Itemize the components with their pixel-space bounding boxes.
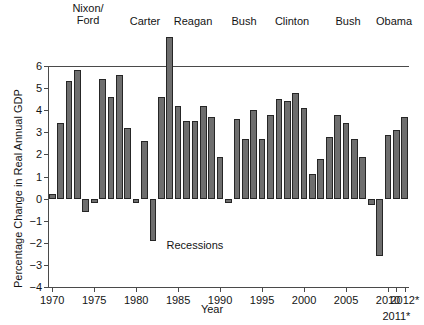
x-tick [405,287,406,292]
y-axis-line [48,66,49,288]
president-label-band: Nixon/ FordCarterReaganBushClintonBushOb… [0,0,424,34]
y-tick-label: 3 [36,126,42,138]
y-tick [44,265,48,266]
y-tick-label: 1 [36,171,42,183]
bar [393,130,400,199]
y-tick-label: 6 [36,60,42,72]
bar [166,37,173,198]
y-tick [44,110,48,111]
president-label: Obama [354,16,424,28]
bar [284,101,291,198]
bar [276,99,283,198]
bar [183,121,190,198]
bar [66,81,73,198]
gdp-bar-chart: Nixon/ FordCarterReaganBushClintonBushOb… [0,0,424,325]
bar [267,115,274,199]
bar [74,70,81,198]
bar [175,106,182,199]
y-tick [44,66,48,67]
x-tick [304,287,305,292]
bar [250,110,257,198]
x-tick [262,287,263,292]
bar [208,117,215,199]
x-axis-line [48,287,409,288]
y-tick [44,199,48,200]
bar [217,157,224,199]
bar [401,117,408,199]
y-tick [44,154,48,155]
bar [359,157,366,199]
bar [133,199,140,203]
y-axis-title: Percentage Change in Real Annual GDP [12,89,24,288]
bar [49,194,56,198]
bar [376,199,383,256]
y-tick-label: −2 [29,237,42,249]
y-tick-label: −1 [29,215,42,227]
bar [141,141,148,198]
bar [150,199,157,241]
y-tick-label: 0 [36,193,42,205]
y-tick-label: 4 [36,104,42,116]
recessions-annotation: Recessions [166,239,223,251]
bar [234,119,241,199]
bar [259,139,266,199]
x-tick [136,287,137,292]
y-tick [44,88,48,89]
y-tick-label: −4 [29,281,42,293]
bar [91,199,98,203]
x-tick [94,287,95,292]
bar [334,115,341,199]
bar [326,137,333,199]
bar [242,139,249,199]
bar [57,123,64,198]
y-tick [44,132,48,133]
bar [124,128,131,199]
y-tick-label: 5 [36,82,42,94]
y-tick-label: 2 [36,148,42,160]
x-tick [396,287,397,292]
bar [351,139,358,199]
bar [368,199,375,206]
bar [317,159,324,199]
bar [116,75,123,199]
bar [192,121,199,198]
y-tick [44,243,48,244]
bar [225,199,232,203]
bar [99,79,106,198]
bar [292,93,299,199]
x-tick [220,287,221,292]
zero-baseline [48,66,409,67]
bar [309,174,316,198]
x-tick [52,287,53,292]
y-tick [44,287,48,288]
bar [301,108,308,199]
bar [385,135,392,199]
bar [343,123,350,198]
x-axis-title: Year [0,303,424,315]
y-tick [44,177,48,178]
y-tick-label: −3 [29,259,42,271]
x-tick [388,287,389,292]
x-tick [346,287,347,292]
bar [108,97,115,199]
bar [82,199,89,212]
plot-area: 6543210−1−2−3−4 197019751980198519901995… [48,66,409,288]
bar [158,97,165,199]
y-tick [44,221,48,222]
x-tick [178,287,179,292]
bar [200,106,207,199]
